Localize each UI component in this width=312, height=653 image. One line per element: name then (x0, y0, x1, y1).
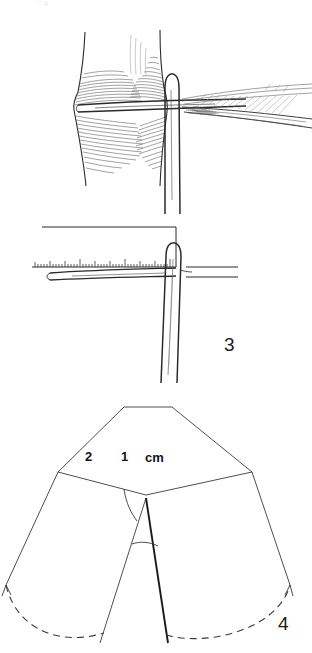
fan-hatching-right (182, 84, 312, 128)
limb-left-inner (100, 498, 146, 643)
ruler-body (32, 227, 176, 267)
ruler-ticks (35, 259, 170, 267)
arc-right-dashed (166, 585, 290, 639)
horizontal-probe (47, 268, 176, 280)
figure-number-4: 4 (278, 614, 289, 633)
hatching-lower-right (136, 117, 166, 169)
arc-arrowheads (2, 585, 293, 596)
figure-3-illustration: 2 1 cm (0, 215, 312, 385)
segment-AE (58, 407, 124, 472)
figure-top-illustration (0, 0, 312, 215)
hatching-lower-left (76, 116, 143, 173)
figure-4-svg (0, 385, 312, 653)
figure-number-3: 3 (224, 335, 235, 354)
figure-top-svg (0, 0, 312, 215)
vertical-needle (165, 74, 180, 214)
limb-right-outer (252, 472, 290, 585)
arc-left-dashed (6, 585, 104, 638)
figure-plate-page: ' ' = (0, 0, 312, 653)
figure-4-diagram: A B C E F D R α (0, 385, 312, 653)
segment-ED (58, 472, 146, 495)
limb-right-inner (146, 498, 168, 643)
hatching-upper-left (75, 71, 142, 105)
limb-left-outer (6, 472, 58, 585)
vertical-needle-measured (161, 243, 181, 383)
figure-3-svg (0, 215, 312, 385)
arc-radius-R (124, 489, 137, 521)
hatching-column-shading (130, 35, 146, 75)
segment-BF (172, 407, 252, 472)
probe-right-segment (180, 267, 238, 277)
segment-DF (146, 472, 252, 495)
